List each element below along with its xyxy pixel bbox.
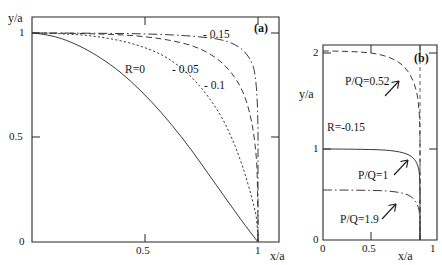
panel-b-ytick-label-0: 0 — [313, 234, 319, 245]
curve-label-r015: - 0.15 — [203, 29, 230, 41]
curve-label-r0: R=0 — [125, 64, 145, 76]
curve-r015 — [32, 33, 258, 242]
panel-a-xlabel: x/a — [270, 250, 285, 262]
label-pq19: P/Q=1.9 — [340, 214, 379, 226]
curve-r005 — [32, 33, 258, 242]
panel-a-tag: (a) — [254, 22, 268, 34]
panel-a-ytick-label-05: 0.5 — [9, 131, 23, 142]
panel-b-ytick-label-1: 1 — [313, 143, 319, 154]
label-pq052: P/Q=0.52 — [345, 76, 390, 88]
figure-container: y/a 1 0.5 0 0.5 1 x/a (a) R=0 - 0.05 - 0… — [0, 0, 442, 265]
panel-b-xlabel: x/a — [398, 250, 413, 262]
arrow-pq1 — [394, 160, 408, 175]
panel-a-xtick-label-05: 0.5 — [136, 245, 150, 256]
arrow-pq19 — [382, 204, 396, 219]
panel-a-axes — [32, 17, 279, 242]
panel-a-ytick-label-1: 1 — [19, 27, 25, 38]
panel-a-curves — [32, 33, 258, 242]
label-pq1: P/Q=1 — [358, 170, 388, 182]
curve-r0 — [32, 33, 258, 242]
panel-a-ytick-label-0: 0 — [19, 236, 25, 247]
panel-a-xtick-label-1: 1 — [255, 245, 261, 256]
panel-b-xtick-label-0: 0 — [320, 243, 326, 254]
panel-b-ytick-label-2: 2 — [313, 47, 319, 58]
curve-label-r005: - 0.05 — [172, 64, 199, 76]
panel-a-ylabel: y/a — [8, 12, 23, 24]
panel-b-xtick-label-1: 1 — [430, 243, 436, 254]
panel-b-tag: (b) — [414, 52, 429, 64]
panel-a-frame — [32, 17, 279, 242]
panel-b-xtick-label-05: 0.5 — [362, 243, 376, 254]
curve-r01 — [32, 33, 258, 242]
panel-b-ylabel: y/a — [299, 88, 314, 100]
label-r-value: R=-0.15 — [327, 122, 365, 134]
curve-label-r01: - 0.1 — [204, 80, 225, 92]
